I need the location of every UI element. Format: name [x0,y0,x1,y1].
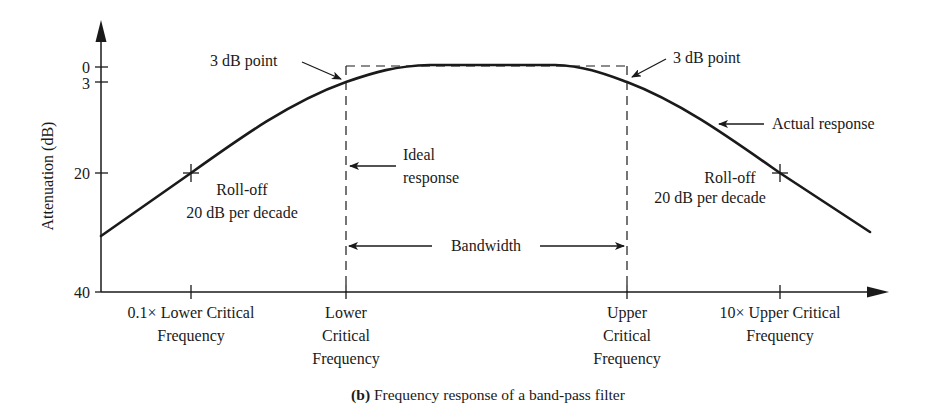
svg-text:Upper: Upper [607,304,648,322]
svg-text:3 dB point: 3 dB point [210,52,278,70]
y-axis-arrow-icon [96,20,107,42]
figure-caption: (b) Frequency response of a band-pass fi… [351,386,626,404]
annotation-3db-left: 3 dB point [210,52,341,79]
svg-text:Lower: Lower [325,304,367,321]
y-tick-40: 40 [74,284,90,301]
svg-text:10× Upper Critical: 10× Upper Critical [720,304,842,322]
svg-text:Frequency: Frequency [157,327,225,345]
x-tick-label-0.1x-lower-critical: 0.1× Lower Critical Frequency [128,304,255,345]
annotation-bandwidth: Bandwidth [349,237,624,254]
rolloff-marker-left-icon [183,164,199,182]
x-axis: 0.1× Lower Critical Frequency Lower Crit… [101,285,889,368]
y-tick-3: 3 [82,75,90,92]
svg-text:Frequency: Frequency [593,350,661,368]
svg-text:Critical: Critical [322,327,371,344]
ideal-response-dashed [346,66,627,292]
svg-text:response: response [403,169,459,187]
y-axis: 0 3 20 40 Attenuation (dB) [39,20,108,301]
svg-text:3 dB point: 3 dB point [673,49,741,67]
svg-text:Roll-off: Roll-off [216,181,268,198]
y-tick-0: 0 [82,59,90,76]
annotation-rolloff-right: Roll-off 20 dB per decade [654,169,766,207]
y-axis-label: Attenuation (dB) [39,122,57,231]
svg-text:Frequency: Frequency [746,327,814,345]
band-pass-frequency-response-diagram: 0 3 20 40 Attenuation (dB) 0.1× Lower Cr… [0,0,934,411]
annotation-rolloff-left: Roll-off 20 dB per decade [186,181,298,222]
annotation-ideal-response: Ideal response [350,146,459,187]
svg-text:20 dB per decade: 20 dB per decade [186,204,298,222]
svg-text:Frequency: Frequency [312,350,380,368]
svg-text:Critical: Critical [603,327,652,344]
svg-text:Roll-off: Roll-off [704,169,756,186]
y-tick-20: 20 [74,165,90,182]
svg-text:Actual response: Actual response [772,115,875,133]
svg-text:Bandwidth: Bandwidth [451,237,521,254]
x-axis-arrow-icon [867,287,889,298]
svg-text:0.1× Lower Critical: 0.1× Lower Critical [128,304,255,321]
annotation-actual-response: Actual response [719,115,875,133]
svg-text:20 dB per decade: 20 dB per decade [654,189,766,207]
x-tick-label-lower-critical: Lower Critical Frequency [312,304,380,368]
x-tick-label-10x-upper-critical: 10× Upper Critical Frequency [720,304,842,345]
svg-text:Ideal: Ideal [403,146,436,163]
x-tick-label-upper-critical: Upper Critical Frequency [593,304,661,368]
rolloff-marker-right-icon [772,164,788,182]
annotation-3db-right: 3 dB point [632,49,741,77]
